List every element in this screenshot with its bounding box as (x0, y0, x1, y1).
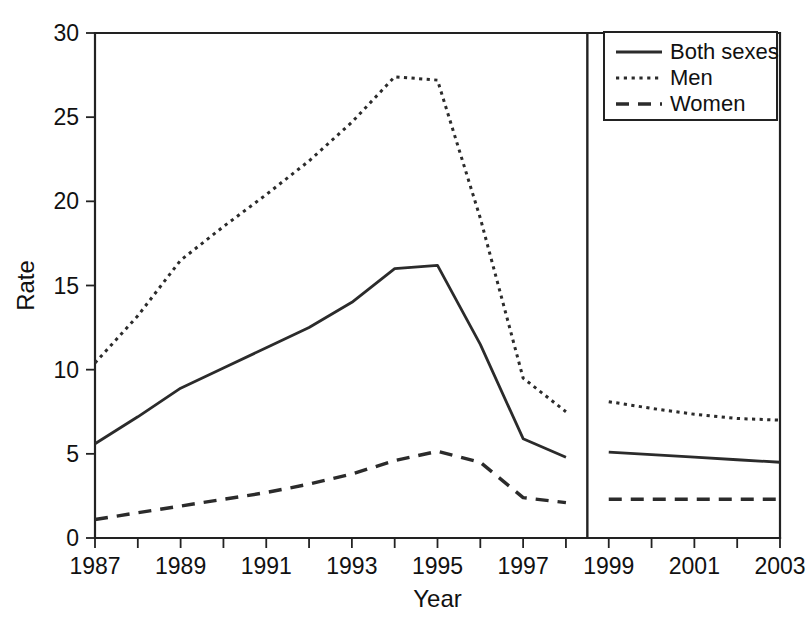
y-tick-label: 15 (53, 273, 79, 299)
series-line-women (95, 451, 566, 519)
legend-label-both-sexes: Both sexes (670, 39, 779, 64)
series-line-both-sexes (95, 265, 566, 457)
x-tick-label: 1991 (241, 553, 292, 579)
x-tick-label: 1999 (583, 553, 634, 579)
x-tick-label: 1993 (326, 553, 377, 579)
y-tick-label: 30 (53, 20, 79, 46)
y-tick-label: 0 (66, 525, 79, 551)
y-tick-label: 5 (66, 441, 79, 467)
chart-figure: 0510152025301987198919911993199519971999… (0, 0, 811, 633)
series-line-both-sexes-right (609, 452, 780, 462)
x-tick-label: 2003 (754, 553, 805, 579)
legend-label-men: Men (670, 65, 713, 90)
y-tick-label: 10 (53, 357, 79, 383)
y-axis-title: Rate (12, 260, 39, 311)
y-tick-label: 25 (53, 104, 79, 130)
y-tick-label: 20 (53, 188, 79, 214)
legend-label-women: Women (670, 91, 745, 116)
series-line-men (95, 77, 566, 412)
x-tick-label: 1989 (155, 553, 206, 579)
x-tick-label: 1997 (498, 553, 549, 579)
x-tick-label: 2001 (669, 553, 720, 579)
x-tick-label: 1987 (69, 553, 120, 579)
series-line-men-right (609, 402, 780, 421)
x-axis-title: Year (413, 585, 462, 612)
chart-legend: Both sexesMenWomen (604, 32, 779, 120)
x-tick-label: 1995 (412, 553, 463, 579)
line-chart-svg: 0510152025301987198919911993199519971999… (0, 0, 811, 633)
